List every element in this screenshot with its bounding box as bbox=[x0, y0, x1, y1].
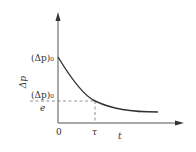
y-axis-arrow-icon bbox=[56, 12, 61, 21]
origin-label: 0 bbox=[56, 127, 62, 137]
y-tau-label-numerator: (Δp)₀ bbox=[31, 90, 54, 100]
decay-curve bbox=[58, 57, 158, 112]
x-axis-arrow-icon bbox=[175, 121, 184, 126]
y-axis-label: Δp bbox=[18, 76, 28, 89]
tau-label: τ bbox=[92, 127, 98, 137]
y-tau-label-denominator: e bbox=[40, 103, 45, 113]
y-start-label: (Δp)₀ bbox=[31, 53, 54, 63]
decay-diagram: Δp (Δp)₀ (Δp)₀ e 0 τ t bbox=[0, 0, 196, 152]
x-axis-label: t bbox=[118, 131, 122, 141]
